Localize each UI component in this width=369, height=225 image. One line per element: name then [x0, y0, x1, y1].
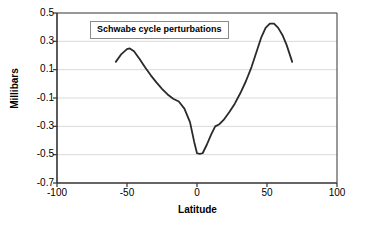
chart-figure: Millibars 0.5 0.3 0.1 -0.1 -0.3 -0.5 -0.… — [0, 0, 369, 225]
x-tick-label: 0 — [177, 188, 217, 198]
x-tick-label: 100 — [317, 188, 357, 198]
y-tick-label: 0.5 — [24, 8, 54, 18]
y-tick-label: 0.1 — [24, 64, 54, 74]
x-axis-title: Latitude — [57, 204, 338, 215]
y-tick-label: -0.5 — [24, 149, 54, 159]
y-tick-label: 0.3 — [24, 36, 54, 46]
x-tick-label: 50 — [247, 188, 287, 198]
x-tick-label: -100 — [37, 188, 77, 198]
y-tick-label: -0.3 — [24, 121, 54, 131]
y-tick-label: -0.1 — [24, 93, 54, 103]
legend-label: Schwabe cycle perturbations — [90, 21, 229, 39]
x-tick-label: -50 — [107, 188, 147, 198]
